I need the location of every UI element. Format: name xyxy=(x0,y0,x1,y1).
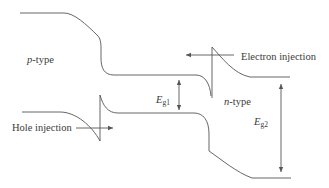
electron-injection-label: Electron injection xyxy=(241,52,316,63)
eg2-subscript: g2 xyxy=(260,120,268,129)
p-type-label: p-type xyxy=(27,55,54,66)
p-type-label-rest: -type xyxy=(32,54,54,65)
band-diagram: p-type n-type Electron injection Hole in… xyxy=(0,0,329,188)
eg1-label: Eg1 xyxy=(156,95,170,107)
valence-band-n-side xyxy=(190,113,291,178)
eg1-subscript: g1 xyxy=(162,98,170,107)
band-diagram-svg xyxy=(0,0,329,188)
eg2-label: Eg2 xyxy=(254,117,268,129)
hole-injection-label: Hole injection xyxy=(12,123,72,134)
n-type-label: n-type xyxy=(224,97,251,108)
n-type-label-rest: -type xyxy=(229,96,251,107)
